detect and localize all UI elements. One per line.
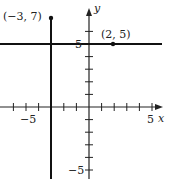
x-axis-arrow-icon — [155, 104, 163, 110]
point-label-neg3-7: (−3, 7) — [3, 10, 42, 23]
y-axis-arrow-icon — [86, 8, 92, 16]
x-axis-label: x — [158, 112, 165, 125]
x-tick-label-neg5: −5 — [20, 113, 36, 126]
coordinate-plane: (−3, 7) (2, 5) 5 −5 −5 5 x y — [0, 0, 172, 179]
point-neg3-7 — [49, 16, 53, 20]
x-tick-label-5: 5 — [147, 113, 154, 126]
point-2-5 — [111, 42, 115, 46]
y-tick-label-neg5: −5 — [68, 164, 84, 177]
y-axis — [86, 8, 92, 179]
y-tick-label-5: 5 — [75, 38, 82, 51]
y-axis-label: y — [93, 2, 101, 15]
x-axis — [0, 104, 163, 110]
point-label-2-5: (2, 5) — [101, 28, 131, 41]
